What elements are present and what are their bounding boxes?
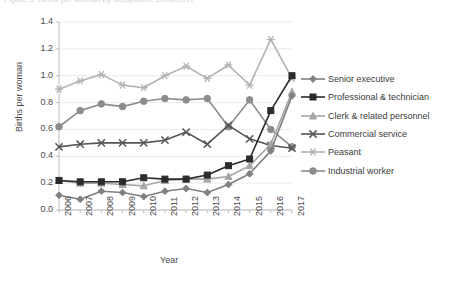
legend-marker-square-icon: [300, 90, 326, 104]
chart-legend: Senior executiveProfessional & technicia…: [300, 70, 430, 180]
data-point-square: [204, 172, 210, 178]
series-peasant: [55, 36, 296, 92]
series-line: [59, 39, 292, 89]
data-point-diamond: [225, 181, 232, 188]
data-point-square: [77, 179, 83, 185]
data-point-circle: [183, 97, 190, 104]
data-point-circle: [268, 126, 275, 133]
x-tick-label-2013: 2013: [211, 196, 221, 216]
x-tick-label-2011: 2011: [169, 197, 179, 216]
legend-item-commercial-service[interactable]: Commercial service: [300, 125, 430, 143]
x-tick-label-2017: 2017: [296, 196, 306, 216]
data-point-square: [268, 108, 274, 114]
legend-label: Peasant: [326, 147, 361, 157]
data-point-square: [141, 175, 147, 181]
series-line: [59, 125, 292, 148]
y-tick-label: 0.6: [19, 123, 53, 133]
data-point-circle: [140, 98, 147, 105]
x-axis-title: Year: [160, 255, 178, 265]
data-point-circle: [204, 95, 211, 102]
x-tick-label-2012: 2012: [190, 196, 200, 216]
x-tick-label-2006: 2006: [63, 196, 73, 216]
data-point-diamond: [119, 189, 126, 196]
legend-marker-circle-icon: [300, 164, 326, 178]
data-point-diamond: [56, 192, 63, 199]
y-tick-label: 1.0: [19, 70, 53, 80]
data-point-diamond: [310, 76, 317, 83]
legend-item-peasant[interactable]: Peasant: [300, 143, 430, 161]
data-point-diamond: [77, 196, 84, 203]
x-tick-label-2010: 2010: [148, 196, 158, 216]
data-point-square: [162, 176, 168, 182]
data-point-diamond: [98, 188, 105, 195]
legend-marker-diamond-icon: [300, 72, 326, 86]
data-point-diamond: [140, 193, 147, 200]
data-point-circle: [98, 101, 105, 108]
data-point-square: [310, 94, 316, 100]
data-point-circle: [77, 107, 84, 114]
data-point-circle: [119, 103, 126, 110]
legend-label: Industrial worker: [326, 166, 394, 176]
series-professional-technician: [56, 73, 295, 185]
data-point-square: [247, 156, 253, 162]
y-tick-label: 1.2: [19, 43, 53, 53]
data-point-circle: [56, 123, 63, 130]
series-senior-executive: [56, 92, 296, 202]
chart-container: Figure 3. Births per woman by occupation…: [0, 0, 450, 281]
data-point-square: [183, 176, 189, 182]
legend-item-clerk-related-personnel[interactable]: Clerk & related personnel: [300, 107, 430, 125]
legend-label: Clerk & related personnel: [326, 111, 430, 121]
legend-item-senior-executive[interactable]: Senior executive: [300, 70, 430, 88]
x-tick-label-2015: 2015: [254, 196, 264, 216]
data-point-circle: [162, 95, 169, 102]
data-point-square: [289, 73, 295, 79]
data-point-diamond: [162, 188, 169, 195]
data-point-circle: [246, 97, 253, 104]
legend-label: Professional & technician: [326, 92, 429, 102]
legend-marker-x-icon: [300, 127, 326, 141]
plot-area: Births per woman Year 0.00.20.40.60.81.0…: [0, 0, 300, 281]
data-point-diamond: [204, 189, 211, 196]
data-point-circle: [310, 167, 317, 174]
legend-label: Senior executive: [326, 74, 395, 84]
series-clerk-related-personnel: [55, 88, 295, 189]
x-tick-label-2016: 2016: [275, 196, 285, 216]
y-tick-label: 1.4: [19, 16, 53, 26]
legend-label: Commercial service: [326, 129, 407, 139]
x-tick-label-2014: 2014: [232, 196, 242, 216]
series-line: [59, 99, 292, 147]
x-tick-label-2008: 2008: [105, 196, 115, 216]
y-tick-label: 0.4: [19, 150, 53, 160]
data-point-square: [98, 179, 104, 185]
x-tick-label-2007: 2007: [84, 196, 94, 216]
legend-item-professional-technician[interactable]: Professional & technician: [300, 88, 430, 106]
x-tick-label-2009: 2009: [127, 196, 137, 216]
y-tick-label: 0.0: [19, 204, 53, 214]
legend-marker-asterisk-icon: [300, 145, 326, 159]
data-point-square: [56, 177, 62, 183]
y-tick-label: 0.8: [19, 97, 53, 107]
data-point-square: [120, 179, 126, 185]
y-tick-label: 0.2: [19, 177, 53, 187]
legend-marker-triangle-icon: [300, 109, 326, 123]
legend-item-industrial-worker[interactable]: Industrial worker: [300, 161, 430, 179]
data-point-diamond: [183, 185, 190, 192]
data-point-square: [225, 163, 231, 169]
